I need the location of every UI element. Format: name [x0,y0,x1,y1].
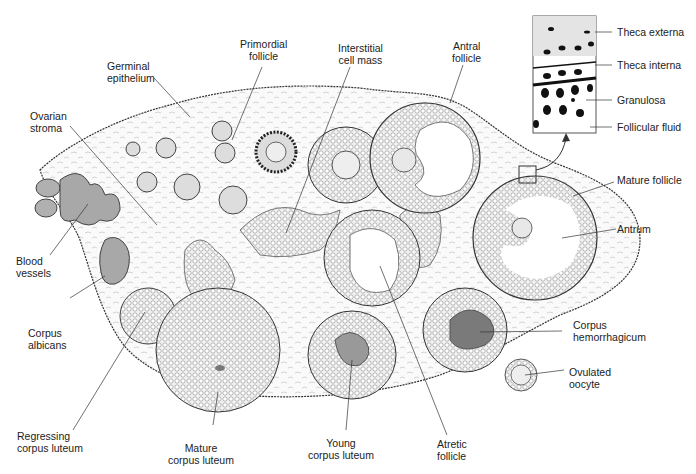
label-corpus-hemorrhagicum: Corpus hemorrhagicum [573,319,646,343]
ovary-diagram [0,0,696,474]
label-interstitial-cell-mass: Interstitial cell mass [338,42,383,66]
label-mature-follicle: Mature follicle [617,174,682,186]
label-antral-follicle: Antral follicle [452,40,481,64]
label-regressing-corpus-luteum: Regressing corpus luteum [17,430,83,454]
label-ovarian-stroma: Ovarian stroma [30,110,67,134]
label-mature-corpus-luteum: Mature corpus luteum [168,442,234,466]
label-granulosa: Granulosa [617,94,665,106]
label-young-corpus-luteum: Young corpus luteum [308,437,374,461]
label-blood-vessels: Blood vessels [16,255,51,279]
label-ovulated-oocyte: Ovulated oocyte [569,366,611,390]
label-antrum: Antrum [617,223,651,235]
label-theca-interna: Theca interna [617,59,681,71]
label-atretic-follicle: Atretic follicle [437,438,467,462]
label-corpus-albicans: Corpus albicans [28,327,67,351]
label-primordial-follicle: Primordial follicle [240,38,287,62]
corpus-albicans-shape [100,237,130,284]
label-follicular-fluid: Follicular fluid [617,121,681,133]
label-germinal-epithelium: Germinal epithelium [107,60,155,84]
inset-panel [533,16,596,133]
label-theca-externa: Theca externa [617,26,684,38]
